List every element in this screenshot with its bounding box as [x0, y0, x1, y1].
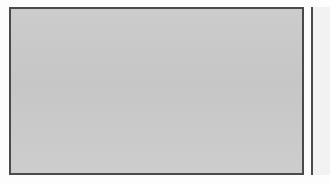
- chart-figure-inner: [11, 9, 302, 173]
- plot-svg: [58, 49, 291, 148]
- chart-figure: [9, 7, 304, 175]
- adjacent-panel-sliver: [311, 7, 330, 175]
- x-axis-ticks: [58, 152, 291, 166]
- screenshot-root: [0, 0, 330, 183]
- y-axis-ticks: [33, 49, 55, 148]
- plot-area: [58, 49, 291, 148]
